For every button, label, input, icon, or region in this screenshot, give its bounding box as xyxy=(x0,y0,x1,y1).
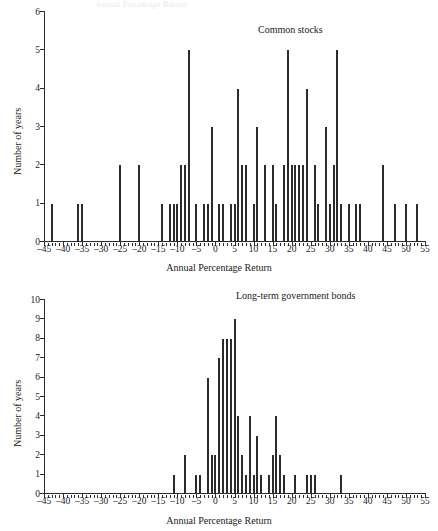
x-tick-label-stocks--30: –30 xyxy=(94,245,108,255)
bar xyxy=(283,475,285,494)
y-tick-bonds-10 xyxy=(40,299,45,300)
y-tick-label-bonds-9: 9 xyxy=(35,315,40,325)
x-tick-bonds--4 xyxy=(200,495,201,498)
x-tick-stocks--28 xyxy=(109,243,110,246)
x-tick-label-stocks-45: 45 xyxy=(382,245,392,255)
x-tick-stocks-1 xyxy=(219,243,220,246)
x-tick-stocks--14 xyxy=(162,243,163,246)
bar xyxy=(226,339,228,494)
y-tick-label-stocks-1: 1 xyxy=(35,199,40,209)
bar xyxy=(314,475,316,494)
plot-area-bonds: 012345678910–45–40–35–30–25–20–15–10–505… xyxy=(44,300,425,494)
bar xyxy=(302,165,304,242)
bar xyxy=(81,204,83,242)
bar xyxy=(195,204,197,242)
bar xyxy=(214,455,216,494)
x-tick-bonds-38 xyxy=(360,495,361,498)
x-tick-label-stocks-50: 50 xyxy=(401,245,411,255)
y-tick-stocks-3 xyxy=(40,126,45,127)
x-tick-bonds-26 xyxy=(315,495,316,498)
bar xyxy=(234,319,236,494)
bar xyxy=(218,358,220,494)
x-tick-label-bonds--10: –10 xyxy=(170,497,184,507)
bar xyxy=(333,165,335,242)
x-tick-stocks-36 xyxy=(353,243,354,246)
bar xyxy=(405,204,407,242)
bar xyxy=(241,455,243,494)
bar xyxy=(138,165,140,242)
bar xyxy=(336,50,338,242)
bar xyxy=(222,204,224,242)
y-tick-label-stocks-2: 2 xyxy=(35,161,40,171)
x-tick-bonds-7 xyxy=(242,495,243,498)
x-tick-label-stocks--45: –45 xyxy=(37,245,51,255)
y-tick-stocks-4 xyxy=(40,88,45,89)
x-tick-bonds-22 xyxy=(299,495,300,498)
x-tick-stocks-33 xyxy=(341,243,342,246)
x-tick-bonds-3 xyxy=(227,495,228,498)
x-tick-label-stocks-55: 55 xyxy=(420,245,430,255)
bar xyxy=(264,165,266,242)
chart-common-stocks: Number of years Common stocks 0123456–45… xyxy=(0,0,438,270)
x-tick-stocks-42 xyxy=(375,243,376,246)
x-tick-bonds--8 xyxy=(185,495,186,498)
x-tick-label-bonds-25: 25 xyxy=(306,497,316,507)
x-tick-stocks-26 xyxy=(315,243,316,246)
x-tick-bonds--44 xyxy=(48,495,49,498)
y-tick-stocks-6 xyxy=(40,11,45,12)
x-tick-bonds-41 xyxy=(372,495,373,498)
x-tick-label-stocks--35: –35 xyxy=(75,245,89,255)
x-tick-stocks-43 xyxy=(379,243,380,246)
x-tick-bonds-6 xyxy=(238,495,239,498)
x-tick-bonds-31 xyxy=(334,495,335,498)
bar xyxy=(325,127,327,242)
bar xyxy=(230,204,232,242)
y-tick-bonds-8 xyxy=(40,338,45,339)
y-tick-bonds-7 xyxy=(40,357,45,358)
bar xyxy=(279,455,281,494)
bar xyxy=(272,455,274,494)
x-tick-bonds-17 xyxy=(280,495,281,498)
y-tick-stocks-1 xyxy=(40,203,45,204)
bar xyxy=(249,416,251,494)
x-tick-bonds--23 xyxy=(128,495,129,498)
bar xyxy=(298,165,300,242)
x-tick-bonds-32 xyxy=(337,495,338,498)
x-tick-label-stocks-40: 40 xyxy=(363,245,373,255)
x-tick-stocks--4 xyxy=(200,243,201,246)
bar xyxy=(294,165,296,242)
x-tick-label-bonds--30: –30 xyxy=(94,497,108,507)
x-tick-bonds-8 xyxy=(246,495,247,498)
y-tick-label-stocks-6: 6 xyxy=(35,7,40,17)
x-tick-label-stocks--5: –5 xyxy=(192,245,202,255)
y-tick-label-bonds-1: 1 xyxy=(35,470,40,480)
x-tick-stocks-51 xyxy=(410,243,411,246)
y-tick-bonds-3 xyxy=(40,435,45,436)
y-tick-bonds-2 xyxy=(40,454,45,455)
x-tick-bonds--28 xyxy=(109,495,110,498)
bar xyxy=(291,165,293,242)
plot-area-stocks: 0123456–45–40–35–30–25–20–15–10–50510152… xyxy=(44,12,425,242)
x-tick-label-stocks-25: 25 xyxy=(306,245,316,255)
bar xyxy=(77,204,79,242)
x-tick-label-bonds--5: –5 xyxy=(192,497,202,507)
x-tick-bonds-46 xyxy=(391,495,392,498)
y-axis-line-bonds xyxy=(44,300,45,494)
x-tick-stocks--18 xyxy=(147,243,148,246)
y-tick-label-bonds-8: 8 xyxy=(35,334,40,344)
y-tick-label-stocks-4: 4 xyxy=(35,84,40,94)
x-tick-bonds-23 xyxy=(303,495,304,498)
bar xyxy=(173,475,175,494)
bar xyxy=(51,204,53,242)
x-tick-label-bonds-0: 0 xyxy=(213,497,218,507)
x-tick-bonds-13 xyxy=(265,495,266,498)
x-tick-stocks-3 xyxy=(227,243,228,246)
x-tick-stocks-41 xyxy=(372,243,373,246)
x-tick-label-stocks--40: –40 xyxy=(56,245,70,255)
x-tick-label-stocks-35: 35 xyxy=(344,245,354,255)
x-tick-label-bonds--15: –15 xyxy=(151,497,165,507)
x-tick-stocks--13 xyxy=(166,243,167,246)
bar xyxy=(348,204,350,242)
x-tick-stocks--8 xyxy=(185,243,186,246)
x-tick-bonds--38 xyxy=(71,495,72,498)
